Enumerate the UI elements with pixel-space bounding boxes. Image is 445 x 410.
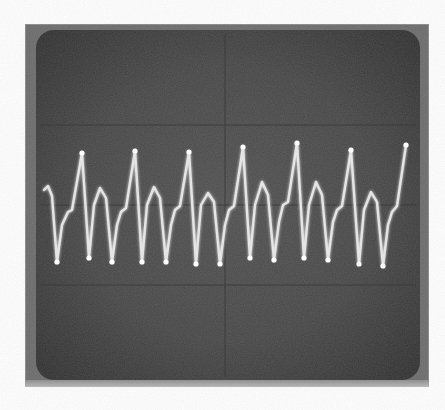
trace-bright-point: [348, 147, 353, 152]
trace-bright-point: [325, 257, 330, 262]
trace-bright-point: [240, 144, 245, 149]
trace-bright-point: [403, 142, 408, 147]
trace-bright-point: [163, 259, 168, 264]
trace-bright-point: [380, 263, 385, 268]
trace-bright-point: [79, 150, 84, 155]
trace-bright-point: [294, 140, 299, 145]
trace-bright-point: [186, 149, 191, 154]
trace-bright-point: [356, 261, 361, 266]
trace-bright-point: [301, 255, 306, 260]
trace-bright-point: [217, 261, 222, 266]
trace-bright-point: [86, 255, 91, 260]
trace-bright-point: [54, 259, 59, 264]
waveform-display: [0, 0, 445, 410]
trace-bright-point: [193, 261, 198, 266]
trace-bright-point: [109, 259, 114, 264]
trace-bright-point: [271, 257, 276, 262]
trace-bright-point: [247, 255, 252, 260]
trace-bright-point: [132, 148, 137, 153]
trace-bright-point: [139, 259, 144, 264]
